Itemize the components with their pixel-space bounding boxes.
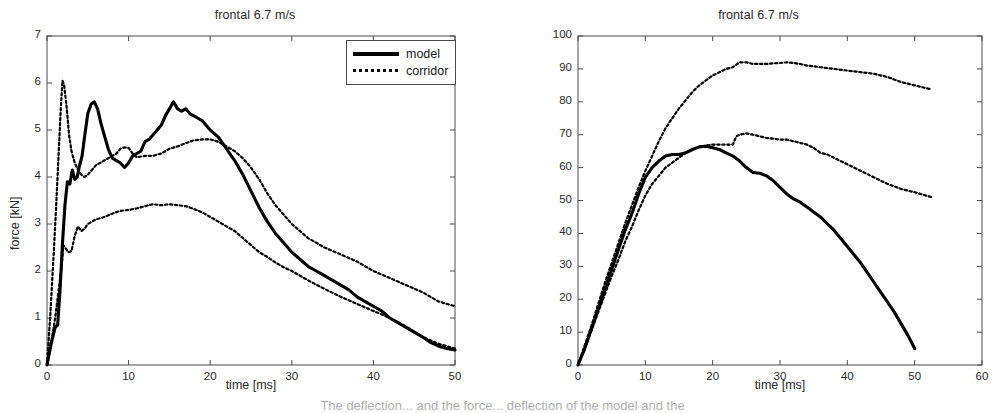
y-tick-label: 70	[532, 127, 572, 139]
y-tick-label: 30	[532, 258, 572, 270]
figure-caption: The deflection... and the force... defle…	[0, 398, 1005, 413]
y-tick-label: 7	[1, 28, 41, 40]
y-tick-label: 10	[532, 324, 572, 336]
y-tick-label: 0	[1, 357, 41, 369]
legend-force: model corridor	[346, 40, 456, 85]
y-tick-label: 60	[532, 160, 572, 172]
y-tick-label: 0	[532, 357, 572, 369]
y-tick-label: 20	[532, 291, 572, 303]
y-tick-label: 4	[1, 169, 41, 181]
y-tick-label: 90	[532, 61, 572, 73]
y-tick-label: 5	[1, 122, 41, 134]
x-tick-label: 30	[760, 370, 800, 382]
series-model	[578, 146, 915, 365]
x-tick-label: 40	[827, 370, 867, 382]
x-tick-label: 30	[272, 370, 312, 382]
x-tick-label: 40	[353, 370, 393, 382]
legend-label-corridor: corridor	[406, 63, 448, 79]
x-tick-label: 0	[27, 370, 67, 382]
y-tick-label: 3	[1, 216, 41, 228]
y-tick-label: 100	[532, 28, 572, 40]
figure-container: frontal 6.7 m/s time [ms] force [kN] mod…	[0, 0, 1005, 413]
series-corridor-upper	[47, 81, 455, 365]
x-tick-label: 20	[693, 370, 733, 382]
x-tick-label: 10	[109, 370, 149, 382]
y-tick-label: 40	[532, 225, 572, 237]
y-tick-label: 2	[1, 263, 41, 275]
x-tick-label: 10	[625, 370, 665, 382]
y-tick-label: 80	[532, 94, 572, 106]
x-tick-label: 50	[435, 370, 475, 382]
chart-panel-deflection: frontal 6.7 m/s time [ms] model corridor…	[500, 0, 1005, 392]
legend-entry-corridor: corridor	[353, 62, 448, 79]
series-model	[47, 102, 455, 365]
legend-line-dotted-icon	[353, 66, 399, 76]
plot-area-deflection	[500, 0, 1005, 392]
series-corridor-lower	[47, 204, 455, 365]
x-tick-label: 0	[558, 370, 598, 382]
x-tick-label: 60	[962, 370, 1002, 382]
series-corridor-lower	[578, 133, 932, 365]
chart-panel-force: frontal 6.7 m/s time [ms] force [kN] mod…	[0, 0, 500, 392]
y-tick-label: 1	[1, 310, 41, 322]
x-tick-label: 20	[190, 370, 230, 382]
y-tick-label: 6	[1, 75, 41, 87]
legend-line-solid-icon	[353, 49, 399, 59]
legend-entry-model: model	[353, 45, 448, 62]
legend-label-model: model	[406, 46, 440, 62]
y-tick-label: 50	[532, 193, 572, 205]
x-tick-label: 50	[895, 370, 935, 382]
